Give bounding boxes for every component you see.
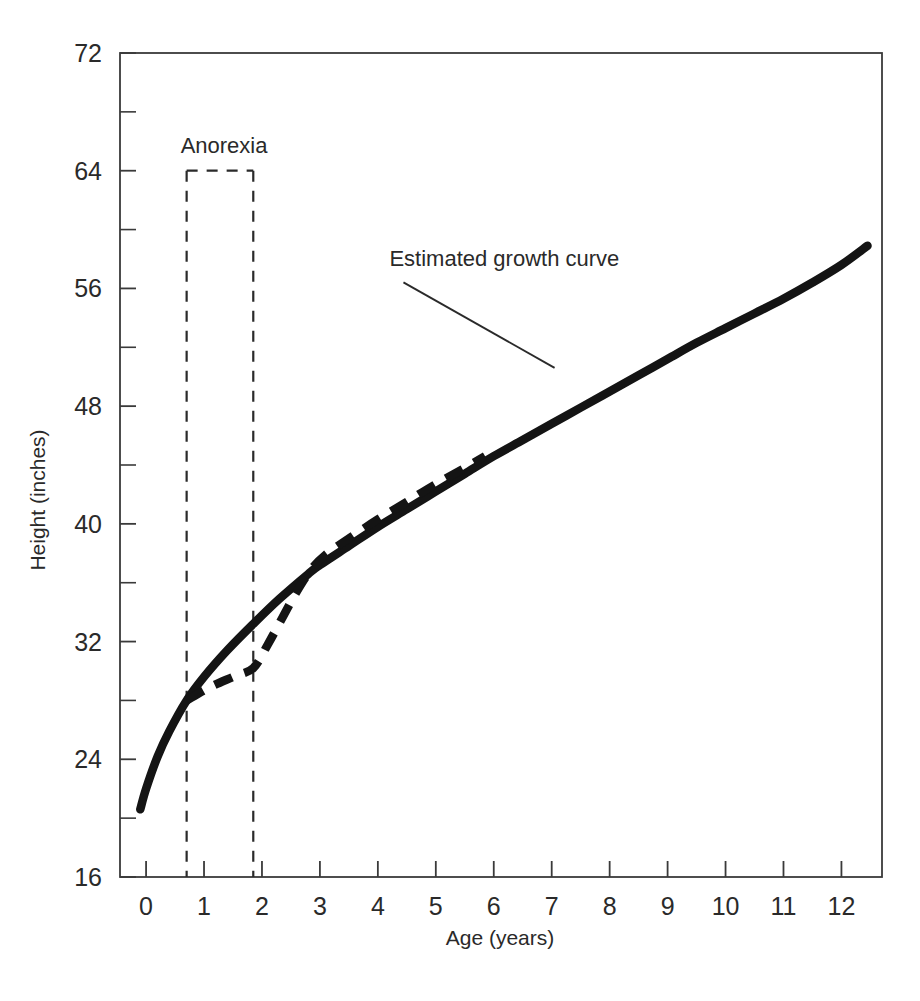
callout-leader-line xyxy=(403,282,554,368)
x-tick-label: 7 xyxy=(545,892,559,920)
x-tick-label: 4 xyxy=(371,892,385,920)
x-tick-label: 1 xyxy=(197,892,211,920)
x-tick-label: 5 xyxy=(429,892,443,920)
x-tick-label: 6 xyxy=(487,892,501,920)
plot-area-border xyxy=(120,53,882,877)
growth-curves xyxy=(140,246,867,810)
y-tick-label: 32 xyxy=(74,628,102,656)
y-tick-label: 56 xyxy=(74,274,102,302)
x-axis-major-ticks xyxy=(146,861,841,877)
chart-canvas: 1624324048566472 0123456789101112 Anorex… xyxy=(0,0,920,1001)
y-axis-minor-ticks xyxy=(120,112,136,818)
y-axis-tick-labels: 1624324048566472 xyxy=(74,39,102,891)
anorexia-period-box xyxy=(187,171,254,877)
x-tick-label: 2 xyxy=(255,892,269,920)
anorexia-label: Anorexia xyxy=(181,133,269,158)
x-tick-label: 8 xyxy=(603,892,617,920)
x-tick-label: 12 xyxy=(828,892,856,920)
estimated-growth-curve-label: Estimated growth curve xyxy=(389,246,619,271)
y-tick-label: 64 xyxy=(74,157,102,185)
estimated-growth-curve xyxy=(140,246,867,810)
estimated-growth-callout-line xyxy=(403,282,554,368)
x-tick-label: 9 xyxy=(661,892,675,920)
x-axis-title: Age (years) xyxy=(446,926,555,949)
x-tick-label: 3 xyxy=(313,892,327,920)
y-tick-label: 40 xyxy=(74,510,102,538)
y-axis-title: Height (inches) xyxy=(26,429,49,570)
y-tick-label: 16 xyxy=(74,863,102,891)
y-tick-label: 48 xyxy=(74,392,102,420)
growth-chart-figure: 1624324048566472 0123456789101112 Anorex… xyxy=(0,0,920,1001)
plot-frame xyxy=(120,53,882,877)
x-tick-label: 10 xyxy=(712,892,740,920)
x-axis-tick-labels: 0123456789101112 xyxy=(139,892,855,920)
y-tick-label: 72 xyxy=(74,39,102,67)
x-tick-label: 0 xyxy=(139,892,153,920)
y-tick-label: 24 xyxy=(74,745,102,773)
x-tick-label: 11 xyxy=(771,892,797,920)
